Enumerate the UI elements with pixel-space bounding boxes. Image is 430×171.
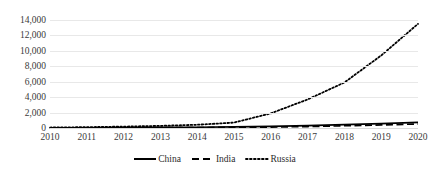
y-axis-tick-label: 6,000 (0, 77, 46, 87)
gridline (50, 66, 418, 67)
x-axis-tick-label: 2010 (30, 131, 70, 143)
gridline (50, 97, 418, 98)
x-axis-tick-label: 2014 (177, 131, 217, 143)
x-axis-tick-label: 2017 (288, 131, 328, 143)
gridline (50, 113, 418, 114)
y-axis-tick-label: 8,000 (0, 61, 46, 71)
legend-label: India (216, 154, 236, 164)
y-axis-tick-label: 10,000 (0, 46, 46, 56)
x-axis-tick-label: 2016 (251, 131, 291, 143)
line-chart: 14,00012,00010,0008,0006,0004,0002,0000 … (0, 0, 430, 171)
y-axis-tick-label: 2,000 (0, 108, 46, 118)
legend-swatch-dashed-icon (192, 154, 214, 164)
x-axis-tick-label: 2011 (67, 131, 107, 143)
plot-area (50, 20, 418, 128)
gridline (50, 20, 418, 21)
legend-item-india[interactable]: India (192, 154, 236, 164)
legend-swatch-solid-icon (134, 154, 156, 164)
legend-swatch-dotted-icon (246, 154, 268, 164)
legend-item-russia[interactable]: Russia (246, 154, 295, 164)
y-axis-labels: 14,00012,00010,0008,0006,0004,0002,0000 (0, 0, 46, 148)
axis-baseline (50, 128, 418, 129)
x-axis-tick-label: 2012 (104, 131, 144, 143)
gridline (50, 82, 418, 83)
x-axis-tick-label: 2019 (361, 131, 401, 143)
y-axis-tick-label: 4,000 (0, 92, 46, 102)
x-axis-tick-label: 2018 (324, 131, 364, 143)
x-axis-tick-label: 2013 (140, 131, 180, 143)
legend-item-china[interactable]: China (134, 154, 181, 164)
legend-label: Russia (270, 154, 295, 164)
y-axis-tick-label: 12,000 (0, 30, 46, 40)
legend-label: China (158, 154, 181, 164)
x-axis-labels: 2010201120122013201420152016201720182019… (50, 131, 418, 147)
x-axis-tick-label: 2015 (214, 131, 254, 143)
gridline (50, 35, 418, 36)
x-axis-tick-label: 2020 (398, 131, 430, 143)
chart-legend: ChinaIndiaRussia (0, 150, 430, 168)
gridline (50, 51, 418, 52)
y-axis-tick-label: 14,000 (0, 15, 46, 25)
